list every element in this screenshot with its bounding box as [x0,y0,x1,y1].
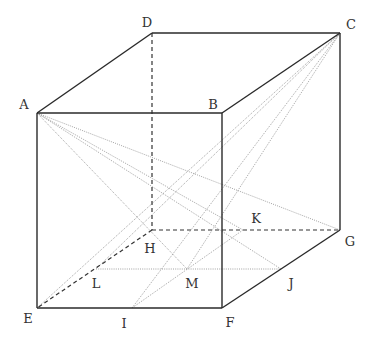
label-B: B [208,98,218,111]
segment-AJ [37,113,281,269]
segment-CL [96,33,340,269]
segment-CE [37,33,340,308]
label-F: F [225,316,234,329]
cube-diagram [0,0,375,347]
hidden-edge-HE [37,230,152,308]
label-K: K [251,212,261,225]
segment-CI [132,33,340,308]
label-E: E [23,312,33,325]
label-L: L [92,277,101,290]
segment-AK [37,113,243,230]
label-G: G [345,235,355,248]
label-H: H [144,242,155,255]
edge-BC [222,33,340,113]
segment-AM [37,113,187,269]
segment-CM [187,33,340,269]
label-D: D [142,16,152,29]
label-A: A [19,98,28,111]
edge-DA [37,33,152,113]
label-J: J [288,277,293,290]
segment-AG [37,113,340,230]
label-I: I [121,317,126,330]
label-M: M [185,277,198,290]
label-C: C [346,18,356,31]
dotted-construction-lines [37,33,340,308]
